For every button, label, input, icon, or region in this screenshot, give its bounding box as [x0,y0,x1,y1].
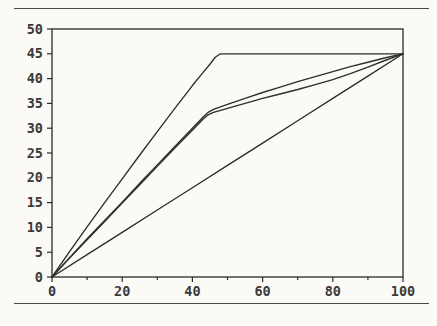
curve-4-linear [52,54,403,277]
x-tick-label: 100 [391,283,415,299]
line-chart-plot: 05101520253035404550 020406080100 [0,0,437,326]
x-tick-label: 60 [254,283,270,299]
y-tick-label: 25 [27,145,43,161]
x-tick-label: 20 [114,283,130,299]
y-tick-label: 5 [35,244,43,260]
y-tick-label: 10 [27,219,43,235]
data-curves-group [52,54,403,277]
y-axis-tick-labels: 05101520253035404550 [27,21,43,285]
y-tick-label: 15 [27,194,43,210]
figure-container: 05101520253035404550 020406080100 [0,0,437,326]
x-tick-label: 0 [48,283,56,299]
x-tick-label: 80 [325,283,341,299]
y-tick-label: 35 [27,95,43,111]
x-tick-label: 40 [184,283,200,299]
y-tick-label: 20 [27,169,43,185]
y-tick-label: 50 [27,21,43,37]
y-tick-label: 30 [27,120,43,136]
x-axis-tick-labels: 020406080100 [48,283,415,299]
y-tick-label: 0 [35,269,43,285]
y-tick-label: 40 [27,70,43,86]
y-tick-label: 45 [27,45,43,61]
